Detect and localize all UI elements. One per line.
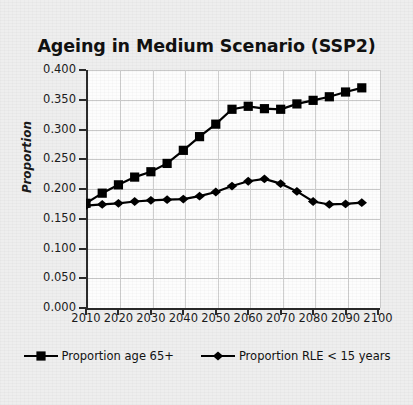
y-axis-label: Proportion	[20, 112, 34, 202]
data-point-marker	[146, 167, 155, 176]
data-point-marker	[324, 200, 334, 209]
x-tick-label: 2050	[201, 311, 230, 325]
y-tick-mark	[79, 69, 86, 71]
data-point-marker	[309, 96, 318, 105]
data-point-marker	[341, 87, 350, 96]
data-point-marker	[244, 102, 253, 111]
y-tick-mark	[79, 99, 86, 101]
data-point-marker	[113, 199, 123, 208]
legend-square-marker-icon	[23, 349, 59, 363]
data-point-marker	[179, 146, 188, 155]
y-tick-mark	[79, 218, 86, 220]
data-point-marker	[357, 83, 366, 92]
data-point-marker	[275, 179, 285, 188]
data-point-marker	[276, 105, 285, 114]
legend-label: Proportion RLE < 15 years	[239, 349, 391, 363]
x-tick-label: 2020	[104, 311, 133, 325]
legend-item[interactable]: Proportion age 65+	[23, 349, 174, 363]
legend-label: Proportion age 65+	[62, 349, 174, 363]
gridline-vertical	[380, 70, 381, 308]
x-tick-label: 2100	[363, 311, 392, 325]
data-point-marker	[259, 174, 269, 183]
data-point-marker	[146, 196, 156, 205]
y-tick-mark	[79, 158, 86, 160]
chart-legend: Proportion age 65+Proportion RLE < 15 ye…	[0, 349, 413, 363]
data-point-marker	[98, 189, 107, 198]
series-line	[86, 88, 362, 203]
data-point-marker	[163, 159, 172, 168]
data-point-marker	[178, 195, 188, 204]
data-point-marker	[243, 177, 253, 186]
data-point-marker	[97, 200, 107, 209]
series-line	[86, 179, 362, 206]
data-point-marker	[129, 197, 139, 206]
data-point-marker	[36, 351, 45, 360]
data-point-marker	[227, 105, 236, 114]
y-tick-label: 0.400	[43, 62, 76, 76]
y-tick-mark	[79, 188, 86, 190]
chart-title: Ageing in Medium Scenario (SSP2)	[0, 36, 413, 56]
y-tick-label: 0.350	[43, 92, 76, 106]
chart-page: Ageing in Medium Scenario (SSP2) Proport…	[0, 0, 413, 405]
y-tick-label: 0.250	[43, 151, 76, 165]
y-tick-label: 0.150	[43, 211, 76, 225]
x-tick-label: 2080	[298, 311, 327, 325]
data-point-marker	[211, 188, 221, 197]
data-point-marker	[162, 195, 172, 204]
x-tick-label: 2010	[71, 311, 100, 325]
y-tick-mark	[79, 307, 86, 309]
data-point-marker	[114, 180, 123, 189]
y-tick-mark	[79, 129, 86, 131]
y-tick-label: 0.200	[43, 181, 76, 195]
x-tick-label: 2030	[136, 311, 165, 325]
data-point-marker	[227, 182, 237, 191]
data-point-marker	[211, 120, 220, 129]
y-tick-label: 0.300	[43, 122, 76, 136]
data-point-marker	[260, 104, 269, 113]
data-point-marker	[194, 192, 204, 201]
y-tick-mark	[79, 277, 86, 279]
x-tick-label: 2070	[266, 311, 295, 325]
data-point-marker	[130, 173, 139, 182]
x-tick-label: 2040	[169, 311, 198, 325]
series-layer	[86, 70, 378, 308]
y-tick-mark	[79, 248, 86, 250]
x-tick-label: 2090	[331, 311, 360, 325]
data-point-marker	[195, 132, 204, 141]
x-tick-label: 2060	[234, 311, 263, 325]
data-point-marker	[340, 199, 350, 208]
y-tick-label: 0.100	[43, 241, 76, 255]
legend-diamond-marker-icon	[200, 349, 236, 363]
y-tick-label: 0.050	[43, 270, 76, 284]
data-point-marker	[213, 352, 223, 361]
data-point-marker	[292, 99, 301, 108]
legend-item[interactable]: Proportion RLE < 15 years	[200, 349, 391, 363]
data-point-marker	[357, 198, 367, 207]
data-point-marker	[325, 92, 334, 101]
